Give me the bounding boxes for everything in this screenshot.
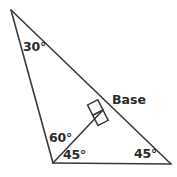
triangle-edge-long-side — [11, 10, 171, 164]
geometry-diagram-canvas: 30° 60° 45° 45° Base — [0, 0, 177, 177]
angle-label-bottom-right-45: 45° — [134, 148, 157, 161]
triangle-edge-bottom-side — [53, 163, 171, 164]
angle-label-interior-left-60: 60° — [49, 132, 72, 145]
right-angle-square-icon — [88, 100, 109, 126]
side-label-base: Base — [112, 94, 146, 107]
triangle-edge-left-side — [11, 10, 53, 163]
angle-label-bottom-left-45: 45° — [63, 149, 86, 162]
angle-label-apex-30: 30° — [23, 41, 46, 54]
